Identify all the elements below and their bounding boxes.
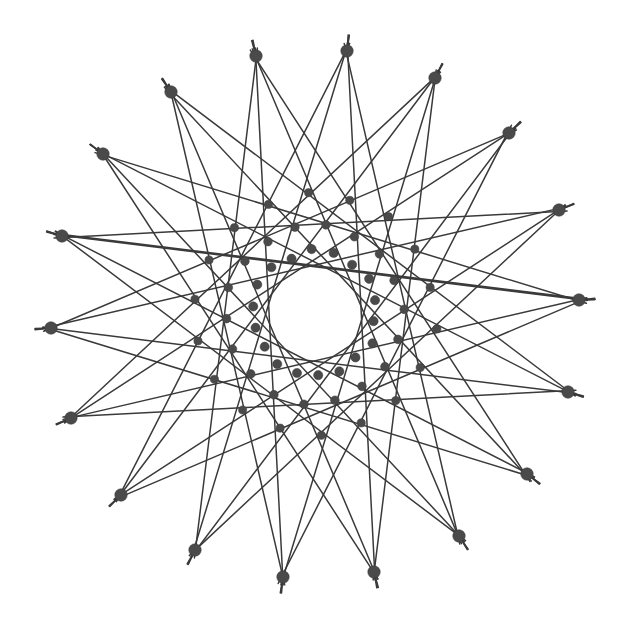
outer-node [368,566,380,578]
outer-node [341,45,353,57]
inner-intersection-node [400,305,409,314]
inner-intersection-node [346,196,354,204]
outer-node [189,544,201,556]
inner-intersection-node [253,280,262,289]
inner-intersection-node [264,237,273,246]
inner-intersection-node [270,390,279,399]
inner-intersection-node [191,295,199,303]
inner-intersection-node [267,263,276,272]
inner-intersection-node [357,419,365,427]
inner-intersection-node [358,382,367,391]
inner-intersection-node [300,400,309,409]
inner-intersection-node [260,342,269,351]
inner-intersection-node [370,296,379,305]
inner-intersection-node [210,375,218,383]
inner-intersection-node [369,317,378,326]
inner-intersection-node [305,189,313,197]
inner-intersection-node [331,396,340,405]
outer-node [277,571,289,583]
inner-intersection-node [224,283,233,292]
inner-intersection-node [329,248,338,257]
inner-intersection-node [205,256,213,264]
inner-intersection-node [322,221,331,230]
inner-intersection-node [433,325,441,333]
inner-intersection-node [239,406,247,414]
inner-intersection-node [249,302,258,311]
inner-intersection-node [351,353,360,362]
inner-intersection-node [368,339,377,348]
inner-intersection-node [276,424,284,432]
inner-intersection-node [411,245,419,253]
inner-intersection-node [222,314,231,323]
inner-intersection-node [314,371,323,380]
inner-intersection-node [246,370,255,379]
inner-intersection-node [365,274,374,283]
inner-intersection-node [287,254,296,263]
outer-node [503,127,515,139]
outer-node [45,322,57,334]
outer-node [573,294,585,306]
inner-intersection-node [394,335,403,344]
inner-intersection-node [291,223,300,232]
outer-node [562,386,574,398]
inner-intersection-node [292,368,301,377]
inner-intersection-node [390,276,399,285]
inner-intersection-node [416,363,424,371]
inner-intersection-node [348,260,357,269]
outer-node [521,468,533,480]
outer-node [115,489,127,501]
outer-node [165,86,177,98]
inner-intersection-node [228,345,237,354]
inner-intersection-node [384,212,392,220]
outer-node [429,72,441,84]
inner-intersection-node [241,257,250,266]
inner-intersection-node [375,250,384,259]
inner-intersection-node [251,323,260,332]
inner-intersection-node [381,362,390,371]
outer-node [97,148,109,160]
inner-intersection-node [392,397,400,405]
inner-intersection-node [350,232,359,241]
inner-intersection-node [335,367,344,376]
outer-node [250,50,262,62]
inner-intersection-node [230,224,238,232]
inner-intersection-node [264,200,272,208]
inner-intersection-node [307,245,316,254]
inner-intersection-node [194,337,202,345]
inner-intersection-node [426,283,434,291]
inner-intersection-node [273,360,282,369]
inner-intersection-node [317,431,325,439]
outer-node [453,530,465,542]
outer-node [56,230,68,242]
background [0,0,627,627]
outer-node [65,412,77,424]
outer-node [553,204,565,216]
star-polygon-diagram [0,0,627,627]
figure-canvas [0,0,627,627]
